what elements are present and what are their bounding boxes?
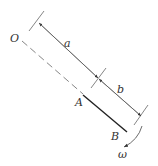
label-pivot-o: O xyxy=(10,32,19,45)
extension-line-middle xyxy=(91,68,106,88)
label-omega: ω xyxy=(118,148,127,161)
extension-line-bottom xyxy=(134,105,148,125)
rod-diagram: O a b A B ω xyxy=(0,0,158,166)
extension-line-top xyxy=(29,11,44,31)
rod-ab xyxy=(83,95,127,132)
rotation-arc-icon xyxy=(124,126,142,147)
dimension-line-a-end xyxy=(39,23,98,78)
dashed-centerline xyxy=(22,41,83,94)
label-dim-b: b xyxy=(117,83,124,96)
label-dim-a: a xyxy=(64,37,71,50)
label-point-a: A xyxy=(74,96,83,109)
label-point-b: B xyxy=(110,130,119,143)
